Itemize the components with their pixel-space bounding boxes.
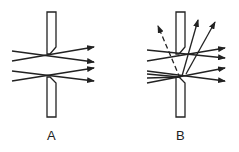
slit-diagram: [0, 0, 239, 152]
panel-a-label: A: [47, 128, 56, 143]
upper-barrier-b: [176, 12, 185, 54]
upper-barrier-a: [47, 12, 56, 54]
rays-a: [12, 47, 94, 81]
rays-b: [147, 20, 225, 83]
lower-barrier-a: [47, 77, 56, 117]
lower-barrier-b: [176, 77, 185, 117]
panel-a: [12, 12, 94, 117]
panel-b-label: B: [176, 128, 185, 143]
panel-b: [147, 12, 225, 117]
